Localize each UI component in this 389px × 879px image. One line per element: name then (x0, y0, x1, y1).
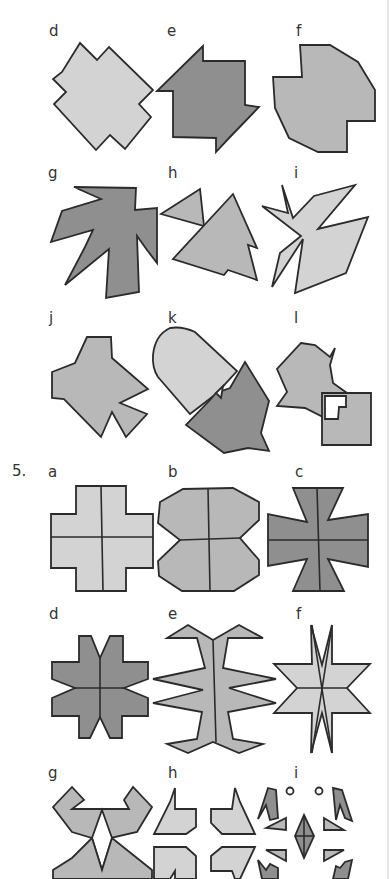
shape-prev-d (53, 43, 153, 150)
shape-prev-g (51, 187, 157, 298)
q5-shape-h-br (211, 847, 255, 879)
q5-shape-i-spike-tl (258, 788, 278, 820)
q5-shape-h-tr (211, 788, 255, 834)
q5-shape-i-tri-bl (266, 850, 286, 861)
q5-shape-i-circle-right (316, 788, 323, 795)
q5-shape-i-spike-bl (258, 860, 278, 879)
q5-shape-i-tri-br (324, 850, 344, 861)
shape-prev-h-small (161, 189, 204, 226)
shape-prev-i (262, 185, 368, 293)
q5-shape-h-bl (154, 847, 196, 879)
q5-shape-i-tri-tl (266, 818, 286, 830)
figure-canvas (0, 0, 389, 879)
q5-shape-i-circle-left (287, 788, 294, 795)
shape-prev-j (52, 337, 148, 437)
shape-prev-f (273, 45, 375, 152)
q5-shape-i-spike-br (333, 860, 352, 879)
q5-shape-i-tri-tr (324, 818, 344, 830)
q5-shape-h-tl (154, 788, 196, 834)
q5-shape-i-spike-tr (333, 788, 352, 821)
shape-prev-e (157, 46, 259, 152)
